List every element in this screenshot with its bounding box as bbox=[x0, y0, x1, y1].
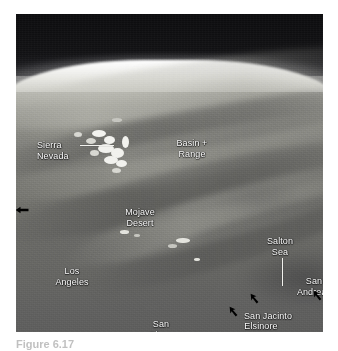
left-edge-arrow-icon bbox=[16, 205, 29, 215]
san-andreas-fault-arrow-icon bbox=[312, 289, 323, 302]
playa-speck bbox=[120, 230, 129, 234]
playa-speck bbox=[168, 244, 177, 248]
sierra-snow-patch bbox=[116, 160, 127, 167]
satellite-photograph: Sierra Nevada Basin + Range Mojave Deser… bbox=[16, 14, 323, 332]
sierra-snow-patch bbox=[122, 136, 129, 148]
sierra-snow-patch bbox=[86, 138, 96, 144]
sierra-snow-patch bbox=[104, 136, 115, 144]
playa-speck bbox=[194, 258, 200, 261]
leader-line-sierra-nevada bbox=[80, 145, 114, 146]
terrain-surface bbox=[16, 92, 323, 332]
playa-speck bbox=[134, 234, 140, 237]
leader-line-salton-sea bbox=[282, 258, 283, 286]
figure-container: Sierra Nevada Basin + Range Mojave Deser… bbox=[0, 0, 338, 351]
playa-speck bbox=[176, 238, 190, 243]
playa-speck bbox=[112, 118, 122, 122]
figure-caption-text: Figure 6.17 bbox=[16, 338, 323, 351]
elsinore-fault-arrow-icon bbox=[228, 305, 241, 318]
sierra-snow-patch bbox=[112, 168, 121, 173]
sierra-snow-patch bbox=[90, 150, 99, 156]
sierra-snow-patch bbox=[92, 130, 106, 137]
sierra-snow-patch bbox=[74, 132, 82, 137]
figure-caption: Figure 6.17 bbox=[16, 338, 323, 351]
san-jacinto-fault-arrow-icon bbox=[249, 292, 262, 305]
